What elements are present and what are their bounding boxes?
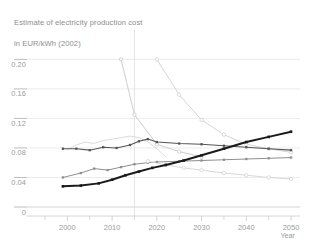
data-point-marker — [245, 158, 247, 160]
y-axis-tick-label: 0.12 — [11, 119, 26, 128]
data-point-marker — [80, 172, 82, 174]
data-point-marker — [124, 174, 127, 177]
data-point-marker — [75, 148, 77, 150]
series-line — [63, 158, 291, 178]
data-point-marker — [62, 176, 64, 178]
gridlines-group — [27, 59, 300, 207]
data-point-marker — [222, 133, 225, 136]
data-point-marker — [62, 148, 64, 150]
y-axis-labels-group: 00.040.080.120.160.20 — [11, 60, 26, 217]
line-chart-plot: 00.040.080.120.160.20 200020102020203020… — [0, 0, 309, 242]
chart-figure: Estimate of electricity production cost … — [0, 0, 309, 242]
data-point-marker — [138, 140, 140, 142]
data-point-marker — [156, 141, 158, 143]
data-point-marker — [223, 145, 225, 147]
data-point-marker — [289, 177, 292, 180]
data-series-group — [62, 58, 293, 188]
data-point-marker — [106, 169, 108, 171]
data-point-marker — [146, 160, 149, 163]
data-point-marker — [200, 154, 203, 157]
data-point-marker — [120, 166, 122, 168]
x-axis-labels-group: 200020102020203020402050 — [59, 223, 300, 232]
series-line — [67, 136, 165, 157]
x-axis-title: Year — [280, 231, 295, 240]
data-point-marker — [223, 159, 225, 161]
x-axis-group — [27, 216, 300, 221]
data-point-marker — [290, 130, 293, 133]
series-line — [157, 59, 291, 152]
data-point-marker — [178, 93, 181, 96]
data-point-marker — [182, 166, 185, 169]
data-point-marker — [62, 185, 65, 188]
data-point-marker — [268, 148, 270, 150]
data-point-marker — [222, 171, 225, 174]
data-point-marker — [151, 167, 154, 170]
data-point-marker — [290, 149, 292, 151]
data-point-marker — [129, 144, 131, 146]
data-point-marker — [164, 164, 167, 167]
series-mid-gray-series — [62, 156, 292, 178]
data-point-marker — [79, 184, 82, 187]
data-point-marker — [268, 157, 270, 159]
x-axis-tick-label: 2030 — [193, 223, 210, 232]
data-point-marker — [138, 170, 141, 173]
data-point-marker — [245, 141, 248, 144]
data-point-marker — [133, 163, 135, 165]
data-point-marker — [245, 146, 247, 148]
data-point-marker — [155, 58, 158, 61]
y-axis-tick-label: 0.08 — [11, 148, 26, 157]
data-point-marker — [115, 147, 117, 149]
x-axis-tick-label: 2020 — [148, 223, 165, 232]
data-point-marker — [245, 174, 248, 177]
series-line — [63, 139, 291, 150]
x-axis-tick-label: 2010 — [104, 223, 121, 232]
data-point-marker — [182, 159, 185, 162]
data-point-marker — [223, 147, 226, 150]
data-point-marker — [200, 168, 203, 171]
data-point-marker — [133, 113, 136, 116]
y-axis-tick-label: 0 — [22, 208, 26, 217]
data-point-marker — [200, 118, 203, 121]
x-axis-tick-label: 2000 — [59, 223, 76, 232]
data-point-marker — [111, 178, 114, 181]
data-point-marker — [290, 156, 292, 158]
data-point-marker — [267, 176, 270, 179]
data-point-marker — [97, 182, 100, 185]
data-point-marker — [102, 146, 104, 148]
data-point-marker — [178, 150, 181, 153]
series-historical-wavy-light — [67, 136, 165, 157]
data-point-marker — [267, 136, 270, 139]
data-point-marker — [200, 143, 202, 145]
data-point-marker — [147, 138, 149, 140]
series-steep-decline-b — [155, 58, 293, 154]
data-point-marker — [178, 142, 180, 144]
data-point-marker — [93, 167, 95, 169]
data-point-marker — [89, 149, 91, 151]
y-axis-tick-label: 0.20 — [11, 60, 26, 69]
y-axis-tick-label: 0.04 — [11, 178, 26, 187]
data-point-marker — [200, 159, 202, 161]
data-point-marker — [119, 58, 122, 61]
y-axis-tick-label: 0.16 — [11, 89, 26, 98]
x-axis-tick-label: 2040 — [238, 223, 255, 232]
